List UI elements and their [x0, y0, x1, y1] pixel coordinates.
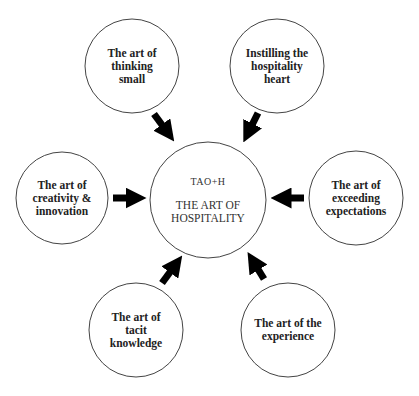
arrow-icon	[162, 264, 176, 283]
node-label: Instilling the	[246, 47, 308, 60]
node-label: experience	[254, 330, 321, 343]
node-label: The art of	[107, 47, 156, 60]
arrow-icon	[253, 261, 264, 279]
node-label: The art of	[326, 179, 387, 192]
center-label-line2: HOSPITALITY	[171, 212, 245, 225]
node-label: The art of	[110, 311, 162, 324]
arrow-icon	[154, 114, 168, 133]
node-label: creativity &	[33, 192, 92, 205]
node-label: The art of the	[254, 317, 321, 330]
node-label: hospitality	[246, 60, 308, 73]
center-abbr: TAO+H	[171, 176, 245, 187]
node-creativity-innovation: The art of creativity & innovation	[16, 152, 108, 244]
node-label: exceeding	[326, 192, 387, 205]
center-label-line1: THE ART OF	[171, 199, 245, 212]
center-node: TAO+H THE ART OF HOSPITALITY	[150, 142, 266, 258]
arrow-icon	[248, 113, 258, 133]
node-thinking-small: The art of thinking small	[85, 19, 179, 113]
node-hospitality-heart: Instilling the hospitality heart	[230, 19, 324, 113]
node-label: heart	[246, 73, 308, 86]
node-label: thinking	[107, 60, 156, 73]
node-label: tacit	[110, 324, 162, 337]
node-tacit-knowledge: The art of tacit knowledge	[89, 283, 183, 377]
node-label: small	[107, 73, 156, 86]
node-label: expectations	[326, 205, 387, 218]
node-exceeding-expectations: The art of exceeding expectations	[309, 151, 403, 245]
node-label: The art of	[33, 179, 92, 192]
node-label: innovation	[33, 205, 92, 218]
node-the-experience: The art of the experience	[241, 283, 335, 377]
node-label: knowledge	[110, 337, 162, 350]
